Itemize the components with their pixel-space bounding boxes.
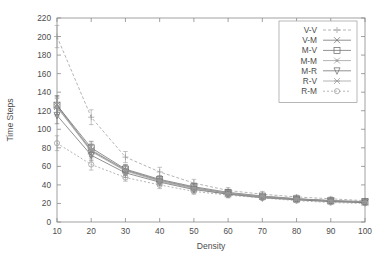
series-line [57, 107, 365, 203]
y-tick-label-10: 200 [37, 32, 51, 42]
x-axis-title: Density [197, 241, 226, 251]
y-tick-label-11: 220 [37, 13, 51, 23]
y-tick-label-0: 0 [46, 217, 51, 227]
y-tick-label-4: 80 [42, 143, 52, 153]
y-tick-label-6: 120 [37, 106, 51, 116]
legend-box [279, 21, 357, 102]
legend-label-M-M: M-M [300, 56, 317, 66]
x-tick-label-9: 100 [358, 226, 372, 236]
legend-label-M-V: M-V [302, 45, 318, 55]
series-M-V [54, 96, 368, 205]
series-line [57, 143, 365, 203]
y-tick-label-7: 140 [37, 87, 51, 97]
legend-label-R-M: R-M [301, 86, 317, 96]
legend-label-M-R: M-R [301, 66, 317, 76]
legend-label-R-V: R-V [303, 76, 318, 86]
x-tick-label-4: 50 [189, 226, 199, 236]
y-axis-title: Time Steps [5, 98, 15, 141]
x-tick-label-7: 80 [292, 226, 302, 236]
series-line [57, 105, 365, 202]
y-tick-label-5: 100 [37, 124, 51, 134]
series-R-M [54, 136, 367, 206]
x-tick-label-3: 40 [155, 226, 165, 236]
y-tick-label-2: 40 [42, 180, 52, 190]
chart-container: 0204060801001201401601802002201020304050… [0, 0, 385, 262]
series-V-M [54, 96, 368, 206]
x-tick-label-0: 10 [52, 226, 62, 236]
series-line [57, 107, 365, 202]
x-tick-label-2: 30 [121, 226, 131, 236]
x-tick-label-6: 70 [258, 226, 268, 236]
legend-label-V-M: V-M [302, 35, 317, 45]
x-tick-label-5: 60 [223, 226, 233, 236]
x-tick-label-1: 20 [87, 226, 97, 236]
x-tick-label-8: 90 [326, 226, 336, 236]
y-tick-label-8: 160 [37, 69, 51, 79]
series-R-V [54, 98, 368, 205]
y-tick-label-1: 20 [42, 198, 52, 208]
y-tick-label-9: 180 [37, 50, 51, 60]
legend-label-V-V: V-V [304, 25, 318, 35]
y-tick-label-3: 60 [42, 161, 52, 171]
line-chart: 0204060801001201401601802002201020304050… [0, 0, 385, 262]
